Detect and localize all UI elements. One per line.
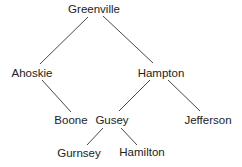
edge-gusey-gurnsey [87,128,103,145]
node-greenville: Greenville [68,3,120,15]
edge-hampton-jefferson [168,80,200,111]
edge-hampton-gusey [119,80,150,111]
tree-diagram: Greenville Ahoskie Hampton Boone Gusey J… [0,0,242,167]
node-hamilton: Hamilton [119,146,164,158]
edge-gusey-hamilton [121,128,137,145]
node-boone: Boone [54,114,87,126]
edge-greenville-ahoskie [40,17,88,64]
node-hampton: Hampton [138,67,185,79]
node-gusey: Gusey [95,114,128,126]
node-gurnsey: Gurnsey [57,147,100,159]
node-jefferson: Jefferson [184,114,231,126]
edge-greenville-hampton [103,16,153,63]
node-ahoskie: Ahoskie [12,67,53,79]
edge-ahoskie-boone [42,80,71,112]
edges-layer [0,0,242,167]
